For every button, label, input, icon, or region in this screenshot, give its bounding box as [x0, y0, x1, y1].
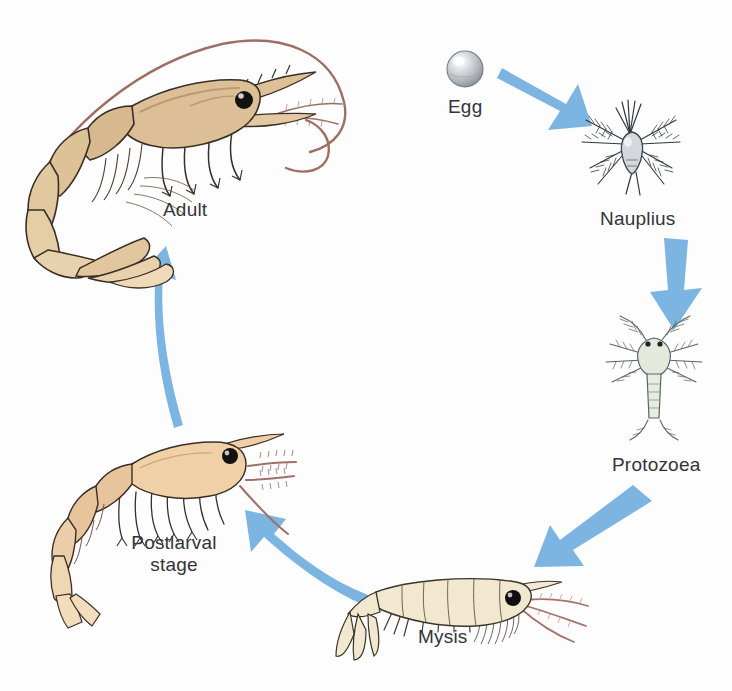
mysis-figure — [330, 548, 592, 668]
nauplius-figure — [578, 100, 682, 196]
label-adult: Adult — [163, 199, 207, 221]
label-protozoea: Protozoea — [612, 454, 700, 476]
protozoea-figure — [600, 310, 708, 444]
postlarval-figure — [48, 408, 328, 628]
label-nauplius: Nauplius — [600, 208, 676, 230]
life-cycle-diagram: Egg Nauplius Protozoea Mysis Postlarval … — [0, 0, 732, 691]
label-mysis: Mysis — [418, 626, 468, 648]
label-postlarval: Postlarval stage — [119, 532, 229, 576]
egg-figure — [444, 48, 488, 92]
adult-figure — [14, 28, 354, 290]
label-egg: Egg — [448, 96, 482, 118]
